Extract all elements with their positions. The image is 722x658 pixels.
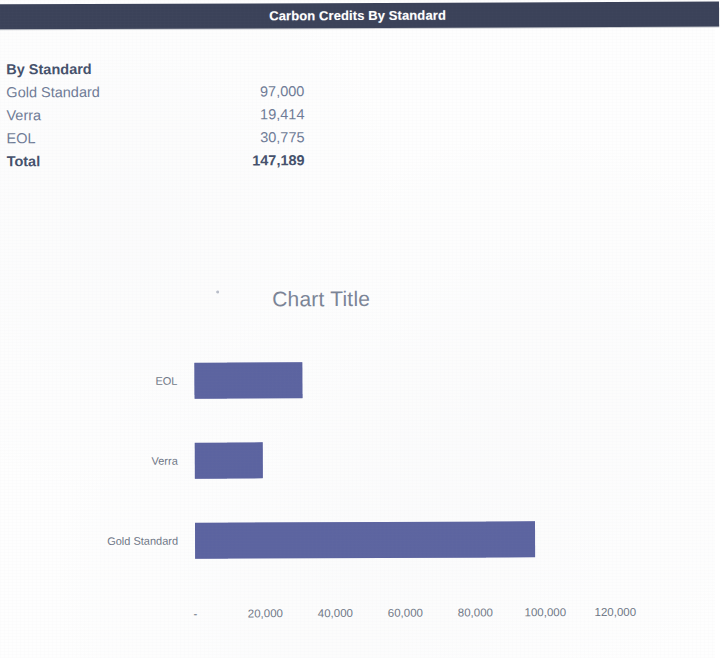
total-label: Total [7,153,177,170]
row-label: Gold Standard [6,84,176,101]
chart-bar [194,362,302,398]
table-total-row: Total 147,189 [7,152,307,176]
chart-x-axis: -20,00040,00060,00080,000100,000120,000 [2,606,717,631]
chart-x-tick-label: 20,000 [248,607,283,619]
bar-chart: Chart Title EOLVerraGold Standard -20,00… [1,269,717,652]
chart-bar-track [195,521,615,559]
chart-x-tick-label: 60,000 [388,607,423,619]
table-header-row: By Standard [6,60,306,84]
total-value: 147,189 [177,152,307,168]
chart-x-tick-label: 80,000 [458,606,493,618]
chart-bar [195,521,535,558]
chart-category-label: Gold Standard [2,535,178,548]
chart-title: Chart Title [1,286,641,312]
chart-category-label: EOL [1,375,177,388]
chart-x-tick-label: 40,000 [318,607,353,619]
chart-bar-row: EOL [1,339,716,422]
chart-x-tick-label: 100,000 [525,606,567,618]
chart-bar [195,442,263,478]
row-label: Verra [6,107,176,124]
table-row: Verra 19,414 [6,106,306,130]
row-value: 30,775 [176,129,306,145]
chart-x-tick-label: - [193,608,197,620]
table-row: Gold Standard 97,000 [6,83,306,107]
chart-bar-row: Verra [2,419,717,502]
row-value: 19,414 [176,106,306,122]
chart-plot-area: EOLVerraGold Standard [1,339,717,582]
row-value: 97,000 [176,83,306,99]
chart-x-tick-label: 120,000 [595,606,637,618]
table-header-label: By Standard [6,61,176,78]
row-label: EOL [6,130,176,147]
summary-table: By Standard Gold Standard 97,000 Verra 1… [6,60,306,176]
chart-bar-row: Gold Standard [2,499,717,582]
chart-category-label: Verra [2,455,178,468]
page-title: Carbon Credits By Standard [269,8,446,24]
chart-bar-track [194,361,614,399]
table-row: EOL 30,775 [6,129,306,153]
page-skew-wrapper: Carbon Credits By Standard By Standard G… [0,0,718,658]
title-banner: Carbon Credits By Standard [0,2,719,30]
chart-bar-track [195,441,615,479]
